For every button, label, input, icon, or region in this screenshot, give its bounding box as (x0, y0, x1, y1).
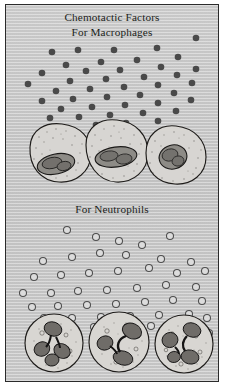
neutrophil-cell (89, 312, 149, 372)
cell-layer (6, 5, 219, 382)
neutrophil-cell (25, 314, 83, 372)
neutrophil-cell (155, 315, 213, 373)
figure-root: Chemotactic Factors For Macrophages For … (0, 0, 225, 389)
illustration-frame: Chemotactic Factors For Macrophages For … (5, 4, 219, 382)
macrophage-cell (86, 120, 148, 182)
macrophage-cell (146, 126, 206, 184)
macrophage-cell (30, 124, 91, 182)
